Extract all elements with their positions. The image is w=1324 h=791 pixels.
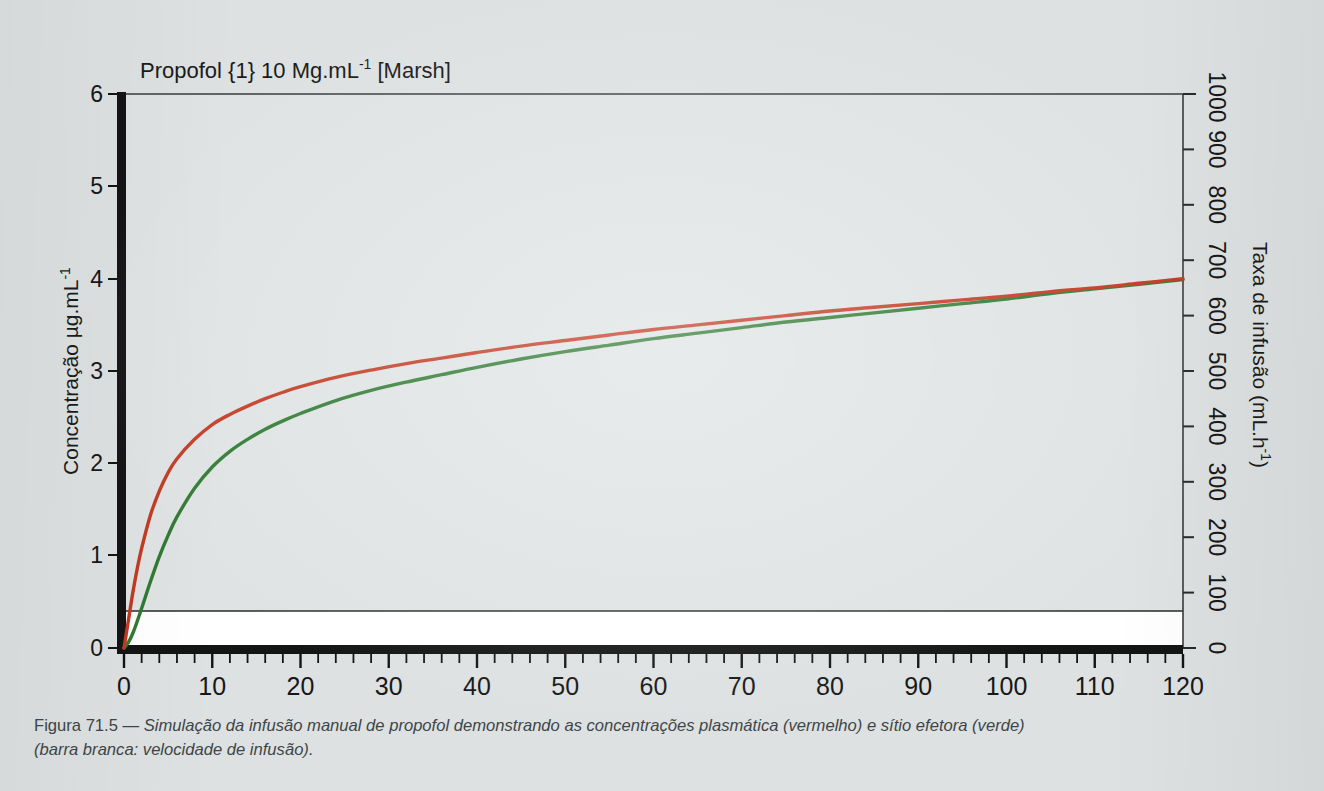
x-tick-label: 20 [287,672,315,700]
y2-axis-title-superscript: -1 [1258,449,1274,462]
y-axis-tick-labels: 0 1 2 3 4 5 6 [90,81,103,661]
x-tick-label: 10 [198,672,226,700]
y-axis-title-superscript: -1 [57,267,73,280]
y-tick-label: 4 [90,266,103,292]
chart-title-superscript: -1 [359,56,372,72]
x-tick-label: 120 [1162,672,1204,700]
y-tick-label: 0 [90,635,103,661]
y-axis-ticks [108,94,118,648]
y-tick-label: 5 [90,173,103,199]
figure-page: 0 1 2 3 4 5 6 Concentração µg.mL-1 [0,0,1324,791]
plot-area-background [124,94,1183,648]
y2-tick-label: 100 [1204,573,1230,611]
y-tick-label: 2 [90,450,103,476]
y2-tick-label: 1000 [1204,71,1230,122]
y2-tick-label: 600 [1204,296,1230,334]
figure-caption: Figura 71.5 — Simulação da infusão manua… [34,714,1304,763]
figure-caption-line1: Simulação da infusão manual de propofol … [144,716,1025,735]
x-tick-label: 100 [986,672,1028,700]
x-axis-line [117,645,1183,654]
concentration-time-chart: 0 1 2 3 4 5 6 Concentração µg.mL-1 [0,0,1324,700]
y-axis-title-main: Concentração µg.mL [59,280,82,475]
y2-tick-label: 400 [1204,407,1230,445]
chart-figure: 0 1 2 3 4 5 6 Concentração µg.mL-1 [0,0,1324,700]
y2-tick-label: 200 [1204,518,1230,556]
x-axis-tick-labels: 0 10 20 30 40 50 60 70 80 90 100 110 120 [117,672,1204,700]
y-tick-label: 3 [90,358,103,384]
y-tick-label: 6 [90,81,103,107]
y-axis-line [117,92,126,650]
x-tick-label: 60 [640,672,668,700]
y2-tick-label: 300 [1204,463,1230,501]
chart-title-tail: [Marsh] [371,58,450,83]
y-axis-title: Concentração µg.mL-1 [57,267,82,475]
chart-title: Propofol {1} 10 Mg.mL-1 [Marsh] [140,56,451,83]
figure-caption-dash: — [118,716,144,735]
x-tick-label: 90 [904,672,932,700]
x-tick-label: 80 [816,672,844,700]
x-tick-label: 0 [117,672,131,700]
figure-number: Figura 71.5 [34,716,118,735]
y2-tick-label: 800 [1204,186,1230,224]
x-tick-label: 70 [728,672,756,700]
y2-tick-label: 500 [1204,352,1230,390]
y2-axis-title-tail: ) [1249,461,1272,468]
figure-caption-line2: (barra branca: velocidade de infusão). [34,740,314,759]
y2-tick-label: 900 [1204,130,1230,168]
y2-axis-title: Taxa de infusão (mL.h-1) [1249,242,1274,468]
y-tick-label: 1 [90,542,103,568]
y2-tick-label: 0 [1204,642,1230,655]
chart-title-main: Propofol {1} 10 Mg.mL [140,58,359,83]
x-tick-label: 50 [551,672,579,700]
x-tick-label: 30 [375,672,403,700]
y2-axis-title-main: Taxa de infusão (mL.h [1249,242,1272,449]
infusion-rate-bar [124,611,1183,648]
y2-tick-label: 700 [1204,241,1230,279]
y2-axis-tick-labels: 0 100 200 300 400 500 600 700 800 900 10… [1204,71,1230,654]
x-tick-label: 40 [463,672,491,700]
x-tick-label: 110 [1075,672,1115,700]
svg-text:Concentração µg.mL-1: Concentração µg.mL-1 [57,267,82,475]
svg-text:Taxa de infusão (mL.h-1): Taxa de infusão (mL.h-1) [1249,242,1274,468]
y2-axis-ticks [1183,94,1196,648]
